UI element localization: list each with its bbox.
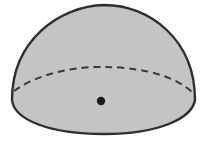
center-point (97, 97, 105, 105)
hemisphere-diagram (0, 0, 214, 141)
hemisphere-body (12, 5, 195, 134)
